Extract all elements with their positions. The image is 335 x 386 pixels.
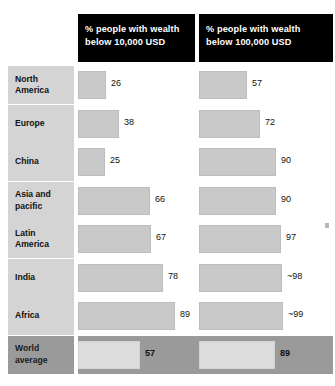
row-label-line1: Asia and [15, 189, 51, 199]
row-label-line2: America [15, 239, 49, 249]
bar-value-below-100k: 97 [286, 232, 296, 242]
bar-value-below-10k: 26 [111, 78, 121, 88]
bar-value-below-10k: 89 [180, 309, 190, 319]
bar-value-below-100k: ~98 [287, 271, 302, 281]
bar-cell-below-10k: 26 [78, 66, 195, 104]
column-header-below-100k: % people with wealth below 100,000 USD [199, 14, 333, 62]
column-header-below-10k-line1: % people with wealth [85, 23, 188, 36]
column-header-below-100k-line1: % people with wealth [206, 23, 326, 36]
bar-below-10k [78, 187, 150, 215]
bar-below-100k [199, 302, 283, 330]
table-row: Worldaverage5789 [0, 336, 335, 374]
bar-below-100k [199, 71, 247, 99]
row-label-0: NorthAmerica [8, 66, 74, 104]
column-header-below-100k-line2: below 100,000 USD [206, 36, 326, 49]
bar-cell-below-10k: 67 [78, 220, 195, 258]
table-row: NorthAmerica2657 [0, 66, 335, 104]
bar-value-below-10k: 67 [156, 232, 166, 242]
table-row: Asia andpacific6690 [0, 182, 335, 220]
bar-below-100k [199, 110, 260, 138]
table-row: India78~98 [0, 259, 335, 297]
row-label-line1: Africa [15, 310, 39, 320]
bar-cell-below-100k: ~98 [199, 259, 335, 297]
bar-below-100k [199, 225, 281, 253]
bar-cell-below-100k: 72 [199, 105, 335, 143]
bar-cell-below-100k: 97 [199, 220, 335, 258]
bar-value-below-10k: 25 [110, 155, 120, 165]
row-label-line1: Latin [15, 228, 36, 238]
bar-cell-below-10k: 89 [78, 297, 195, 335]
bar-cell-below-100k: ~99 [199, 297, 335, 335]
bar-cell-below-10k: 57 [78, 336, 195, 374]
bar-value-below-100k: ~99 [288, 309, 303, 319]
bar-value-below-10k: 57 [145, 348, 155, 358]
page-speck-artifact [325, 223, 329, 228]
bar-below-100k [199, 187, 276, 215]
bar-below-10k [78, 302, 175, 330]
chart-header-row: % people with wealth below 10,000 USD % … [0, 14, 335, 62]
row-label-line2: America [15, 85, 49, 95]
table-row: Europe3872 [0, 105, 335, 143]
bar-value-below-10k: 66 [155, 194, 165, 204]
bar-below-10k [78, 110, 119, 138]
column-header-below-10k: % people with wealth below 10,000 USD [78, 14, 195, 62]
row-label-5: India [8, 259, 74, 297]
bar-value-below-100k: 90 [281, 155, 291, 165]
bar-cell-below-100k: 89 [199, 336, 335, 374]
row-label-3: Asia andpacific [8, 182, 74, 220]
bar-cell-below-10k: 25 [78, 143, 195, 181]
bar-below-100k [199, 341, 275, 369]
bar-below-10k [78, 341, 140, 369]
bar-below-100k [199, 148, 276, 176]
row-label-6: Africa [8, 297, 74, 335]
bar-below-100k [199, 264, 282, 292]
row-label-4: LatinAmerica [8, 220, 74, 258]
bar-value-below-100k: 89 [280, 348, 290, 358]
bar-below-10k [78, 71, 106, 99]
row-label-1: Europe [8, 105, 74, 143]
row-label-line1: India [15, 272, 35, 282]
row-label-line2: average [15, 355, 48, 365]
row-label-line1: World [15, 343, 39, 353]
table-row: LatinAmerica6797 [0, 220, 335, 258]
bar-value-below-100k: 90 [281, 194, 291, 204]
bar-cell-below-100k: 90 [199, 143, 335, 181]
bar-below-10k [78, 225, 151, 253]
bar-cell-below-10k: 78 [78, 259, 195, 297]
column-header-below-10k-line2: below 10,000 USD [85, 36, 188, 49]
row-label-line1: China [15, 156, 39, 166]
row-label-line1: Europe [15, 118, 45, 128]
bar-cell-below-10k: 38 [78, 105, 195, 143]
table-row: Africa89~99 [0, 297, 335, 335]
bar-value-below-100k: 72 [265, 117, 275, 127]
row-label-2: China [8, 143, 74, 181]
wealth-distribution-chart: % people with wealth below 10,000 USD % … [0, 0, 335, 386]
bar-value-below-100k: 57 [252, 78, 262, 88]
row-label-line1: North [15, 74, 38, 84]
bar-cell-below-100k: 57 [199, 66, 335, 104]
bar-below-10k [78, 148, 105, 176]
bar-value-below-10k: 78 [168, 271, 178, 281]
bar-cell-below-100k: 90 [199, 182, 335, 220]
row-label-7: Worldaverage [8, 336, 74, 374]
bar-cell-below-10k: 66 [78, 182, 195, 220]
bar-value-below-10k: 38 [124, 117, 134, 127]
row-label-line2: pacific [15, 201, 42, 211]
table-row: China2590 [0, 143, 335, 181]
bar-below-10k [78, 264, 163, 292]
